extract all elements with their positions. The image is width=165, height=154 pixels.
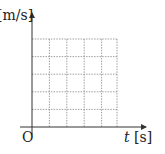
y-axis-label: [m/s] — [0, 7, 33, 23]
x-unit: [s] — [130, 129, 153, 145]
grid — [32, 39, 117, 127]
x-axis-label: t [s] — [124, 129, 152, 145]
origin-label: O — [22, 129, 33, 145]
